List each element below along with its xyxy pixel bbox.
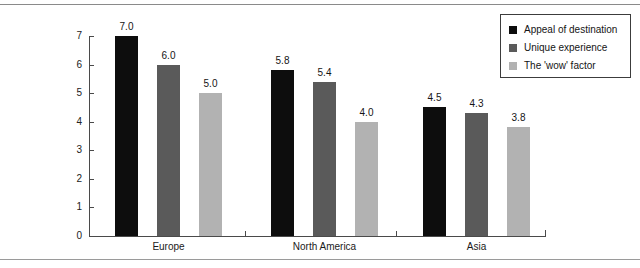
legend-item-label: Appeal of destination	[524, 24, 617, 35]
x-axis-group-separator	[396, 231, 397, 237]
x-axis-category-label: Europe	[109, 241, 229, 253]
bar	[199, 93, 222, 236]
y-axis-tick	[89, 36, 94, 37]
bar	[355, 122, 378, 236]
grouped-bar-chart: 01234567 7.06.05.05.85.44.04.54.33.8 Eur…	[0, 0, 640, 268]
bar-value-label: 4.3	[457, 99, 497, 109]
x-axis-end-cap	[545, 230, 546, 237]
y-axis-tick	[89, 122, 94, 123]
bar-value-label: 4.5	[415, 93, 455, 103]
bar-value-label: 3.8	[499, 113, 539, 123]
y-axis-tick-label: 0	[62, 231, 82, 241]
legend-swatch-icon	[509, 26, 517, 34]
y-axis-tick-label: 4	[62, 117, 82, 127]
legend-swatch-icon	[509, 62, 517, 70]
x-axis-category-label: Asia	[417, 241, 537, 253]
bar-value-label: 5.8	[263, 56, 303, 66]
bar-value-label: 6.0	[149, 51, 189, 61]
legend-item-label: The 'wow' factor	[524, 60, 596, 71]
bar-value-label: 5.4	[305, 68, 345, 78]
bar-value-label: 4.0	[347, 108, 387, 118]
bar	[271, 70, 294, 236]
y-axis-tick-label: 5	[62, 88, 82, 98]
y-axis-tick	[89, 179, 94, 180]
y-axis-tick-label: 6	[62, 60, 82, 70]
legend-item-label: Unique experience	[524, 42, 607, 53]
bar	[507, 127, 530, 236]
x-axis-line	[89, 236, 546, 237]
y-axis-tick	[89, 93, 94, 94]
y-axis-tick	[89, 236, 94, 237]
bar	[115, 36, 138, 236]
legend-item[interactable]: The 'wow' factor	[509, 57, 630, 74]
legend-item[interactable]: Appeal of destination	[509, 21, 630, 38]
bar	[423, 107, 446, 236]
bar-value-label: 5.0	[191, 79, 231, 89]
y-axis-tick	[89, 207, 94, 208]
bar	[465, 113, 488, 236]
bar-value-label: 7.0	[107, 22, 147, 32]
bar	[157, 65, 180, 236]
y-axis-tick-label: 3	[62, 145, 82, 155]
bar	[313, 82, 336, 236]
legend-swatch-icon	[509, 44, 517, 52]
y-axis-tick-label: 1	[62, 202, 82, 212]
y-axis-tick-label: 2	[62, 174, 82, 184]
y-axis-tick	[89, 65, 94, 66]
chart-legend: Appeal of destination Unique experience …	[500, 14, 631, 78]
y-axis-tick-label: 7	[62, 31, 82, 41]
legend-item[interactable]: Unique experience	[509, 39, 630, 56]
x-axis-category-label: North America	[265, 241, 385, 253]
y-axis-tick	[89, 150, 94, 151]
x-axis-group-separator	[245, 231, 246, 237]
